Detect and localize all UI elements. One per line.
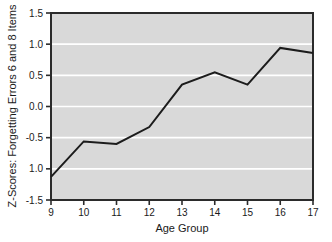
y-axis-tick-label: 0.5	[29, 70, 43, 81]
x-axis-tick-labels: 91011121314151617	[48, 207, 319, 218]
y-axis-tick-label: 1.5	[29, 8, 43, 19]
y-axis-tick-label: 1.0	[29, 163, 43, 174]
line-chart: 1.51.00.50.0-0.51.0-1.5 9101112131415161…	[0, 0, 332, 242]
y-axis-title: Z-Scores: Forgetting Errors 6 and 8 Item…	[6, 4, 18, 207]
x-axis-tick-label: 14	[209, 207, 221, 218]
x-axis-title: Age Group	[155, 222, 208, 234]
x-axis-tick-label: 13	[176, 207, 188, 218]
y-axis-tick-label: -1.5	[26, 195, 44, 206]
y-axis-tick-label: -0.5	[26, 132, 44, 143]
y-axis-tick-label: 0.0	[29, 101, 43, 112]
x-axis-tick-label: 9	[48, 207, 54, 218]
x-axis-tick-label: 11	[111, 207, 122, 218]
x-axis-tick-label: 17	[307, 207, 319, 218]
x-axis-tick-label: 12	[144, 207, 156, 218]
y-axis-tick-label: 1.0	[29, 39, 43, 50]
chart-figure: 1.51.00.50.0-0.51.0-1.5 9101112131415161…	[0, 0, 332, 242]
x-axis-tick-label: 16	[275, 207, 287, 218]
x-axis-tick-label: 10	[78, 207, 90, 218]
x-axis-tick-label: 15	[242, 207, 254, 218]
